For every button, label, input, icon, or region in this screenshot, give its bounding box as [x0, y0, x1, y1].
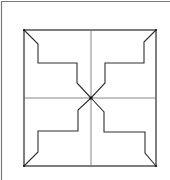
center-point: [89, 96, 92, 99]
arm-upper-right: [91, 30, 156, 98]
arm-lower-right: [91, 98, 156, 166]
arm-upper-left: [24, 30, 91, 98]
corner-dot-bottom-right: [155, 165, 157, 167]
corner-dot-top-left: [23, 29, 25, 31]
corner-dot-bottom-left: [23, 165, 25, 167]
diagram-canvas: [0, 0, 170, 180]
stepped-cross-tile-figure: [0, 0, 170, 180]
corner-dot-top-right: [155, 29, 157, 31]
arm-lower-left: [24, 98, 91, 166]
